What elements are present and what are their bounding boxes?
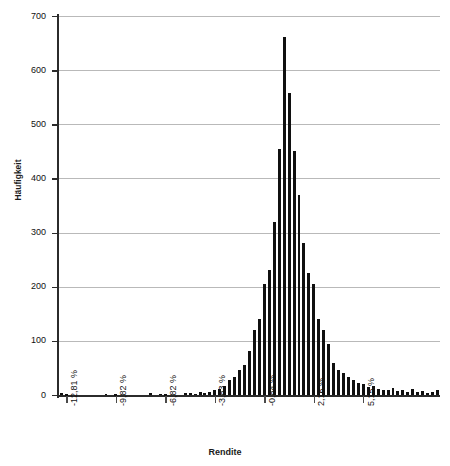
histogram-bar xyxy=(377,389,380,396)
histogram-bar xyxy=(362,384,365,395)
histogram-bar xyxy=(337,370,340,395)
histogram-chart: Häufigkeit 0100200300400500600700 -12,81… xyxy=(0,0,450,466)
histogram-bar xyxy=(228,380,231,395)
histogram-bar xyxy=(114,394,117,395)
histogram-bar xyxy=(416,392,419,395)
histogram-bar xyxy=(263,284,266,395)
histogram-bar xyxy=(332,363,335,395)
histogram-bar xyxy=(60,393,63,395)
histogram-bar xyxy=(199,392,202,395)
histogram-bar xyxy=(65,394,68,395)
histogram-bar xyxy=(208,392,211,395)
histogram-bar xyxy=(396,391,399,395)
histogram-bar xyxy=(283,37,286,395)
histogram-bar xyxy=(288,93,291,395)
histogram-bar xyxy=(293,151,296,395)
histogram-bar xyxy=(159,394,162,395)
histogram-bar xyxy=(406,392,409,395)
histogram-bar xyxy=(218,389,221,395)
histogram-bar xyxy=(312,284,315,395)
histogram-bar xyxy=(302,243,305,395)
histogram-bar xyxy=(213,390,216,395)
histogram-bar xyxy=(317,319,320,395)
histogram-bar xyxy=(401,390,404,395)
histogram-bar xyxy=(436,390,439,395)
bar-series xyxy=(0,0,450,466)
histogram-bar xyxy=(357,383,360,395)
histogram-bar xyxy=(392,388,395,395)
histogram-bar xyxy=(184,393,187,395)
histogram-bar xyxy=(253,330,256,395)
histogram-bar xyxy=(149,393,152,395)
histogram-bar xyxy=(387,390,390,395)
histogram-bar xyxy=(372,386,375,395)
histogram-bar xyxy=(105,394,108,395)
histogram-bar xyxy=(223,386,226,395)
histogram-bar xyxy=(238,370,241,395)
histogram-bar xyxy=(347,377,350,395)
histogram-bar xyxy=(194,394,197,395)
histogram-bar xyxy=(307,273,310,395)
histogram-bar xyxy=(411,389,414,395)
histogram-bar xyxy=(367,387,370,395)
histogram-bar xyxy=(203,393,206,395)
histogram-bar xyxy=(268,270,271,395)
histogram-bar xyxy=(298,195,301,395)
x-axis-title: Rendite xyxy=(0,447,450,457)
histogram-bar xyxy=(243,365,246,395)
histogram-bar xyxy=(164,394,167,395)
histogram-bar xyxy=(233,377,236,395)
histogram-bar xyxy=(278,149,281,395)
histogram-bar xyxy=(248,351,251,395)
histogram-bar xyxy=(322,330,325,395)
histogram-bar xyxy=(352,380,355,395)
histogram-bar xyxy=(421,391,424,395)
histogram-bar xyxy=(258,319,261,395)
histogram-bar xyxy=(382,390,385,395)
histogram-bar xyxy=(431,392,434,395)
histogram-bar xyxy=(342,373,345,395)
histogram-bar xyxy=(426,393,429,395)
histogram-bar xyxy=(189,393,192,395)
histogram-bar xyxy=(327,344,330,395)
histogram-bar xyxy=(273,222,276,395)
